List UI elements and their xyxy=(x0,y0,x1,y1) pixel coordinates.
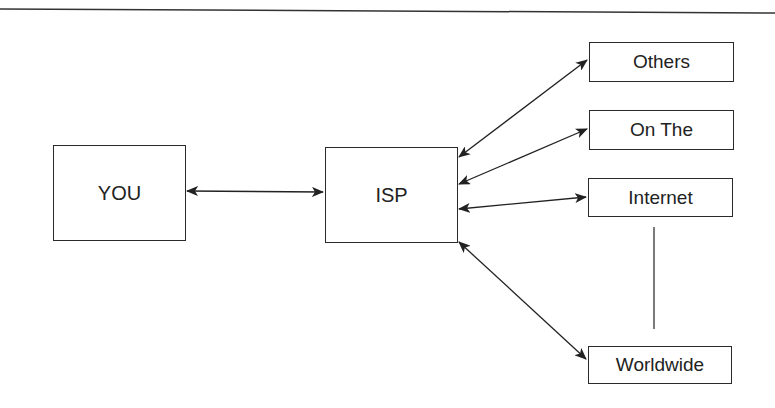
edge-isp-internet xyxy=(459,197,586,209)
node-worldwide: Worldwide xyxy=(588,346,732,384)
node-worldwide-label: Worldwide xyxy=(616,354,704,376)
node-on-the: On The xyxy=(589,110,734,150)
node-you: YOU xyxy=(53,145,186,241)
node-on-the-label: On The xyxy=(630,119,693,141)
node-isp-label: ISP xyxy=(375,184,407,207)
node-isp: ISP xyxy=(325,147,458,243)
node-internet: Internet xyxy=(588,178,733,217)
edge-isp-onthe xyxy=(459,129,587,184)
edge-you-isp xyxy=(187,191,323,192)
edge-isp-others xyxy=(459,60,587,157)
node-others-label: Others xyxy=(633,51,690,73)
node-others: Others xyxy=(589,42,734,82)
top-rule xyxy=(0,9,775,13)
edge-isp-worldwide xyxy=(459,242,586,359)
node-internet-label: Internet xyxy=(628,187,692,209)
node-you-label: YOU xyxy=(98,182,141,205)
